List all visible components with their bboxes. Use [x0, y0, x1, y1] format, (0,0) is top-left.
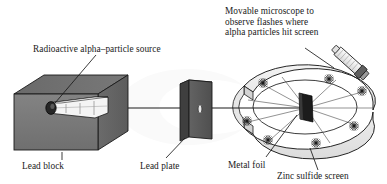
screen-outer-wall — [233, 86, 244, 128]
movable-microscope — [330, 43, 371, 81]
flash-marker — [311, 138, 320, 147]
lead-plate-aperture — [198, 105, 202, 113]
zinc-sulfide-screen — [119, 65, 375, 159]
label-movable-microscope: Movable microscope to observe flashes wh… — [225, 6, 318, 38]
flash-marker — [258, 78, 267, 87]
rutherford-scattering-diagram: Movable microscope to observe flashes wh… — [0, 0, 387, 184]
label-lead-plate: Lead plate — [140, 161, 179, 172]
diagram-canvas — [0, 0, 387, 184]
flash-marker — [242, 116, 251, 125]
flash-marker — [357, 86, 366, 95]
flash-marker — [263, 135, 272, 144]
lead-plate — [180, 80, 212, 141]
label-lead-block: Lead block — [22, 161, 64, 172]
label-radioactive-alpha-particle-source: Radioactive alpha–particle source — [33, 44, 161, 55]
flash-marker — [349, 121, 358, 130]
lead-plate-left-edge — [180, 80, 189, 141]
flash-marker — [324, 74, 333, 83]
metal-foil — [299, 93, 313, 122]
label-metal-foil: Metal foil — [228, 160, 265, 171]
label-zinc-sulfide-screen: Zinc sulfide screen — [277, 171, 349, 182]
